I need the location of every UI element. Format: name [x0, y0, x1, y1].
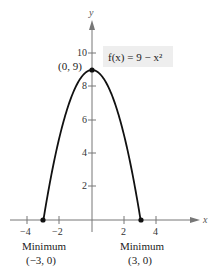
- min-left-coords: (−3, 0): [26, 254, 56, 267]
- x-tick-label: 2: [121, 226, 126, 237]
- y-tick-label: 6: [82, 114, 87, 125]
- x-axis-arrow-icon: [190, 217, 200, 223]
- vertex-point: [89, 67, 94, 72]
- x-axis-label: x: [202, 214, 208, 225]
- x-tick-label: −2: [52, 226, 63, 237]
- y-axis-arrow-icon: [89, 20, 95, 30]
- y-tick-label: 10: [77, 47, 87, 58]
- y-tick-label: 8: [82, 80, 87, 91]
- y-tick-label: 4: [82, 147, 87, 158]
- min-left-point: [40, 217, 45, 222]
- min-left-title: Minimum: [22, 240, 66, 252]
- x-tick-label: 4: [153, 226, 158, 237]
- function-label: f(x) = 9 − x²: [108, 51, 163, 64]
- vertex-label: (0, 9): [58, 60, 82, 73]
- min-right-title: Minimum: [120, 240, 164, 252]
- y-axis-label: y: [88, 7, 94, 18]
- y-tick-label: 2: [82, 180, 87, 191]
- min-right-point: [138, 217, 143, 222]
- x-tick-label: −4: [20, 226, 31, 237]
- min-right-coords: (3, 0): [128, 254, 152, 267]
- parabola-chart: f(x) = 9 − x² x y −4 −2 2 4 2 4 6 8 10 (…: [0, 0, 210, 274]
